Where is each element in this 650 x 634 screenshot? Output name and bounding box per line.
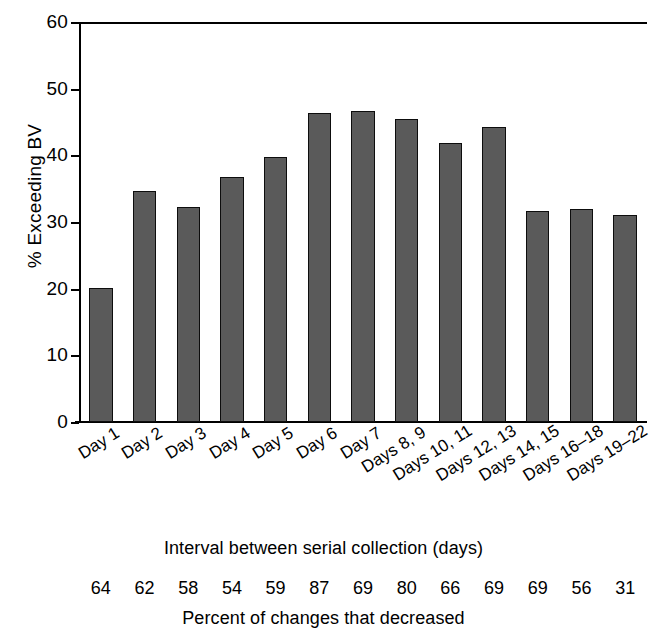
x-axis-tick-labels: Day 1Day 2Day 3Day 4Day 5Day 6Day 7Days … (79, 424, 647, 519)
percent-decreased-value: 69 (516, 577, 560, 599)
percent-decreased-value: 56 (559, 577, 603, 599)
y-axis-tick-mark (71, 222, 79, 224)
bar (613, 215, 636, 422)
percent-decreased-value: 62 (123, 577, 167, 599)
bar (177, 207, 200, 422)
bar (526, 211, 549, 422)
y-axis-tick-mark (71, 355, 79, 357)
bar (264, 157, 287, 422)
x-axis-tick-label: Day 2 (116, 424, 166, 464)
x-axis-tick-label-text: Day 5 (250, 424, 297, 463)
x-axis-tick-label-text: Day 4 (206, 424, 253, 463)
percent-decreased-value: 69 (472, 577, 516, 599)
percent-decreased-value: 31 (603, 577, 647, 599)
y-axis-tick-mark (71, 155, 79, 157)
y-axis-tick-label: 20 (24, 279, 68, 298)
bar (570, 209, 593, 422)
x-axis-tick-label: Day 3 (160, 424, 210, 464)
y-axis-tick-labels: 0102030405060 (20, 0, 68, 440)
bar (133, 191, 156, 422)
y-axis-tick-mark (71, 289, 79, 291)
percent-decreased-caption: Percent of changes that decreased (0, 608, 647, 629)
percent-decreased-values-row: 64625854598769806669695631 (79, 577, 647, 599)
percent-decreased-value: 58 (166, 577, 210, 599)
percent-decreased-value: 69 (341, 577, 385, 599)
x-axis-tick-label-text: Day 2 (119, 424, 166, 463)
bar (220, 177, 243, 422)
bar (482, 127, 505, 422)
bar (89, 288, 112, 422)
y-axis-tick-label: 30 (24, 212, 68, 231)
y-axis-tick-label: 60 (24, 12, 68, 31)
x-axis-title: Interval between serial collection (days… (0, 538, 647, 559)
x-axis-tick-label-text: Day 1 (75, 424, 122, 463)
percent-decreased-value: 66 (428, 577, 472, 599)
percent-decreased-value: 54 (210, 577, 254, 599)
bar (395, 119, 418, 422)
y-axis-tick-label: 10 (24, 345, 68, 364)
y-axis-tick-label: 0 (24, 412, 68, 431)
y-axis-tick-label: 50 (24, 79, 68, 98)
y-axis-tick-mark (71, 22, 79, 24)
percent-decreased-value: 87 (297, 577, 341, 599)
percent-decreased-value: 59 (254, 577, 298, 599)
bar (308, 113, 331, 422)
bar-series (79, 22, 647, 422)
bar (351, 111, 374, 422)
bar (439, 143, 462, 422)
y-axis-tick-label: 40 (24, 145, 68, 164)
percent-decreased-value: 80 (385, 577, 429, 599)
percent-decreased-value: 64 (79, 577, 123, 599)
y-axis-tick-mark (71, 89, 79, 91)
x-axis-tick-label-text: Day 3 (163, 424, 210, 463)
x-axis-tick-label: Day 1 (73, 424, 123, 464)
x-axis-tick-label: Day 4 (204, 424, 254, 464)
x-axis-tick-label: Day 6 (291, 424, 341, 464)
x-axis-tick-label-text: Day 6 (294, 424, 341, 463)
x-axis-tick-label: Day 5 (248, 424, 298, 464)
